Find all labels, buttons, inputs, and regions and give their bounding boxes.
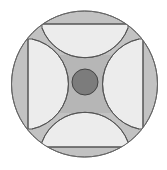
geometry-diagram xyxy=(0,0,167,170)
center-circle xyxy=(72,69,98,95)
